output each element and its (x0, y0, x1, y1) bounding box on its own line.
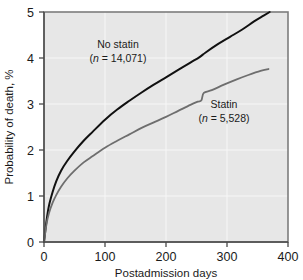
y-tick-label-1: 1 (27, 190, 34, 204)
y-tick-label-4: 4 (27, 52, 34, 66)
y-tick-labels: 5 4 3 2 1 0 (27, 6, 34, 250)
y-tick-label-0: 0 (27, 236, 34, 250)
y-tick-label-3: 3 (27, 98, 34, 112)
statin-label: Statin (211, 98, 238, 110)
no-statin-n-label: (n = 14,071) (90, 52, 147, 64)
statin-n-label: (n = 5,528) (198, 112, 249, 124)
y-tick-label-2: 2 (27, 144, 34, 158)
statin-n-value: = 5,528) (208, 112, 250, 124)
no-statin-n-value: = 14,071) (99, 52, 147, 64)
x-tick-label-200: 200 (156, 250, 177, 264)
x-axis-title: Postadmission days (115, 267, 218, 279)
survival-curve-chart: 5 4 3 2 1 0 0 100 200 300 400 Postadmiss… (0, 0, 303, 280)
x-tick-labels: 0 100 200 300 400 (41, 250, 299, 264)
x-tick-label-100: 100 (95, 250, 116, 264)
y-axis-title: Probability of death, % (3, 69, 15, 184)
y-tick-label-5: 5 (27, 6, 34, 20)
no-statin-label: No statin (97, 38, 139, 50)
x-tick-label-400: 400 (278, 250, 299, 264)
chart-figure: 5 4 3 2 1 0 0 100 200 300 400 Postadmiss… (0, 0, 303, 280)
x-tick-label-0: 0 (41, 250, 48, 264)
x-tick-label-300: 300 (217, 250, 238, 264)
